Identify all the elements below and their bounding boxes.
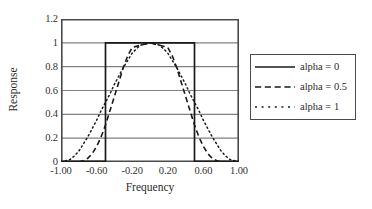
y-tick-label: 0.6 <box>32 86 58 97</box>
gridlines <box>61 43 239 138</box>
x-tick-label: -0.60 <box>86 165 107 176</box>
legend-box: alpha = 0 alpha = 0.5 alpha = 1 <box>250 54 356 120</box>
y-tick-label: 0.2 <box>32 133 58 144</box>
x-tick-label: 0.20 <box>159 165 177 176</box>
legend-label: alpha = 0.5 <box>300 81 347 93</box>
series-line-alpha-0 <box>61 43 239 162</box>
legend-line-sample-dotted <box>254 101 296 113</box>
legend-item-alpha-05: alpha = 0.5 <box>251 77 357 97</box>
x-tick-label: 0.60 <box>194 165 212 176</box>
x-tick-label: -1.00 <box>50 165 71 176</box>
y-axis-tick-labels: 1.2 1 0.8 0.6 0.4 0.2 0 <box>29 19 58 162</box>
y-tick-label: 0.4 <box>32 109 58 120</box>
chart-figure: 1.2 1 0.8 0.6 0.4 0.2 0 <box>0 0 372 209</box>
series-line-alpha-1 <box>61 43 239 162</box>
legend-item-alpha-0: alpha = 0 <box>251 57 357 77</box>
x-axis-tick-labels: -1.00 -0.60 -0.20 0.20 0.60 1.00 <box>61 165 239 179</box>
legend-item-alpha-1: alpha = 1 <box>251 97 357 117</box>
y-tick-label: 1.2 <box>32 14 58 25</box>
x-tick-label: 1.00 <box>230 165 248 176</box>
x-axis-title: Frequency <box>61 181 239 194</box>
y-tick-label: 0.8 <box>32 62 58 73</box>
legend-line-sample-dashed <box>254 81 296 93</box>
legend-line-sample-solid <box>254 61 296 73</box>
legend-label: alpha = 1 <box>300 101 339 113</box>
y-tick-label: 1 <box>32 38 58 49</box>
series-line-alpha-05 <box>61 43 239 162</box>
plot-svg <box>61 19 239 162</box>
x-tick-label: -0.20 <box>122 165 143 176</box>
legend-label: alpha = 0 <box>300 61 339 73</box>
plot-area <box>61 19 239 162</box>
y-axis-title: Response <box>7 55 20 125</box>
